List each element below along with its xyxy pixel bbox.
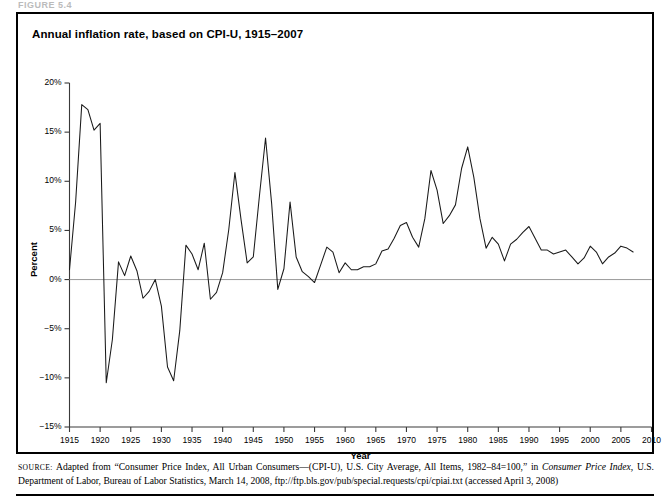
y-axis-tick-label: −15%: [26, 421, 62, 431]
y-axis-tick-label: −5%: [26, 323, 62, 333]
source-italic-title: Consumer Price Index,: [542, 461, 633, 472]
source-prefix: SOURCE:: [18, 463, 53, 472]
x-axis-title: Year: [70, 450, 652, 461]
y-axis-tick-label: 10%: [26, 175, 62, 185]
source-text-before: Adapted from “Consumer Price Index, All …: [53, 461, 542, 472]
x-axis-tick-label: 2010: [634, 435, 670, 445]
y-axis-tick-label: 15%: [26, 126, 62, 136]
y-axis-title: Percent: [28, 242, 39, 277]
figure-border-box: Annual inflation rate, based on CPI-U, 1…: [16, 12, 654, 454]
source-note: SOURCE: Adapted from “Consumer Price Ind…: [18, 461, 654, 487]
y-axis-tick-label: 20%: [26, 77, 62, 87]
y-axis-tick-label: −10%: [26, 372, 62, 382]
y-axis-tick-label: 5%: [26, 224, 62, 234]
bottom-divider-rule: [16, 494, 654, 496]
figure-number-label: FIGURE 5.4: [18, 0, 72, 10]
chart-title: Annual inflation rate, based on CPI-U, 1…: [32, 28, 303, 40]
